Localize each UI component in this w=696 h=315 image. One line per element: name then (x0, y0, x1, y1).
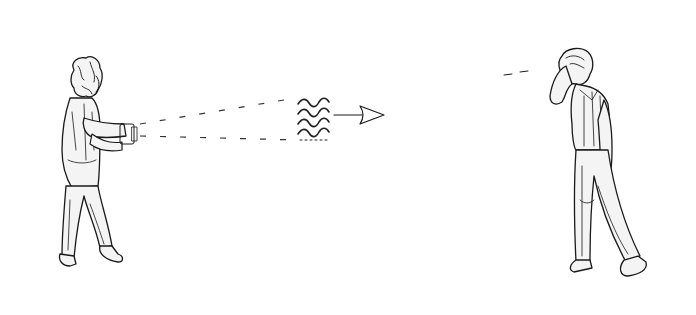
left-person-figure (59, 57, 137, 266)
sound-waves-icon (298, 98, 330, 140)
beam-remnant (504, 71, 528, 75)
right-person-figure (550, 49, 646, 276)
direction-arrow-icon (334, 106, 384, 124)
beam-cone (140, 98, 298, 140)
illustration-scene (0, 0, 696, 315)
